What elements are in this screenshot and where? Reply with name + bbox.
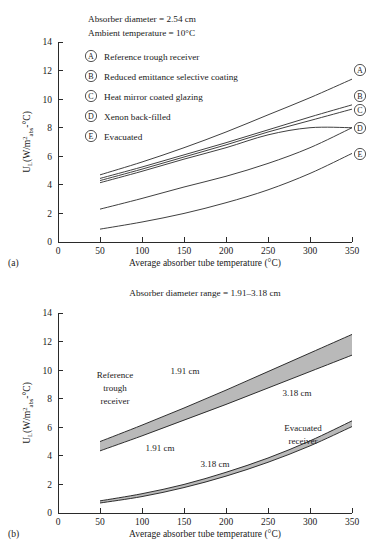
- bands-group-b: [100, 334, 352, 503]
- panel-a-svg: Absorber diameter = 2.54 cm Ambient temp…: [0, 0, 375, 271]
- y-tick-label-2: 2: [47, 209, 52, 219]
- panel-b-svg: Absorber diameter range = 1.91–3.18 cm 0…: [0, 271, 375, 542]
- x-tick-label-250: 250: [261, 246, 276, 256]
- end-label-e: E: [354, 148, 365, 159]
- ylabel-b-main2: (W/m: [22, 410, 33, 433]
- annot-ref-line1: Reference: [97, 370, 133, 380]
- x-tick-label-b-50: 50: [95, 517, 105, 527]
- x-axis-title-b: Average absorber tube temperature (°C): [129, 529, 281, 540]
- annot-ref-line2: trough: [103, 383, 127, 393]
- ylabel-b-main3: -°C): [22, 382, 33, 398]
- legend-key-e: E: [89, 132, 94, 141]
- x-tick-label-b-300: 300: [303, 517, 318, 527]
- chart-panel-b: Absorber diameter range = 1.91–3.18 cm 0…: [0, 271, 375, 542]
- end-label-text-e: E: [358, 150, 363, 159]
- y-tick-label-14: 14: [43, 37, 53, 47]
- legend-label-d: Xenon back-filled: [104, 112, 171, 122]
- note-absorber-diameter: Absorber diameter = 2.54 cm: [88, 14, 196, 24]
- y-axis-title-a: UL(W/m2abs-°C): [21, 111, 34, 173]
- y-tick-label-6: 6: [47, 152, 52, 162]
- legend-key-a: A: [88, 52, 94, 61]
- x-tick-label-b-100: 100: [135, 517, 150, 527]
- y-tick-label-b-2: 2: [47, 480, 52, 490]
- end-label-text-c: C: [357, 106, 362, 115]
- x-tick-label-350: 350: [345, 246, 360, 256]
- x-ticks-a: 0 50 100 150 200 250 300 350: [56, 237, 360, 256]
- curves-group-a: [100, 79, 352, 229]
- x-tick-label-200: 200: [219, 246, 234, 256]
- legend-key-c: C: [88, 92, 93, 101]
- x-tick-label-0: 0: [56, 246, 61, 256]
- x-tick-label-300: 300: [303, 246, 318, 256]
- legend-label-c: Heat mirror coated glazing: [104, 92, 203, 102]
- x-tick-label-50: 50: [95, 246, 105, 256]
- note-ambient-temperature: Ambient temperature = 10°C: [88, 28, 195, 38]
- end-label-c: C: [354, 104, 365, 115]
- x-tick-label-b-150: 150: [177, 517, 192, 527]
- legend-item-e: E Evacuated: [85, 130, 142, 141]
- y-tick-label-b-6: 6: [47, 423, 52, 433]
- annot-lower-318: 3.18 cm: [201, 459, 230, 469]
- y-tick-label-8: 8: [47, 123, 52, 133]
- svg-text:UL(W/m2abs-°C): UL(W/m2abs-°C): [21, 382, 34, 444]
- end-label-text-d: D: [357, 124, 363, 133]
- y-ticks-a: 0 2 4 6 8 10 12 14: [43, 37, 64, 247]
- y-ticks-b: 0 2 4 6 8 10 12 14: [43, 308, 64, 518]
- ylabel-main2: (W/m: [22, 139, 33, 162]
- annot-evac-line2: receiver: [289, 436, 318, 446]
- panel-label-a: (a): [8, 258, 19, 269]
- y-tick-label-b-10: 10: [43, 366, 53, 376]
- y-tick-label-b-12: 12: [43, 337, 53, 347]
- legend-label-a: Reference trough receiver: [104, 52, 199, 62]
- x-tick-label-150: 150: [177, 246, 192, 256]
- legend-key-d: D: [88, 112, 94, 121]
- legend-item-b: B Reduced emittance selective coating: [85, 70, 238, 81]
- annotation-evacuated-receiver: Evacuated receiver: [284, 423, 322, 446]
- legend-item-a: A Reference trough receiver: [85, 50, 199, 61]
- y-tick-label-b-8: 8: [47, 394, 52, 404]
- y-tick-label-12: 12: [43, 66, 53, 76]
- y-tick-label-b-0: 0: [47, 508, 52, 518]
- note-absorber-diameter-range: Absorber diameter range = 1.91–3.18 cm: [129, 288, 280, 298]
- curve-e: [100, 153, 352, 229]
- ylabel-main3: -°C): [22, 111, 33, 127]
- end-label-text-b: B: [357, 92, 362, 101]
- annot-ref-line3: receiver: [101, 396, 130, 406]
- annot-upper-191: 1.91 cm: [171, 366, 200, 376]
- x-tick-label-b-200: 200: [219, 517, 234, 527]
- x-tick-label-b-350: 350: [345, 517, 360, 527]
- end-labels-a: A B C D E: [354, 64, 365, 159]
- end-label-text-a: A: [357, 66, 363, 75]
- end-label-d: D: [354, 122, 365, 133]
- panel-label-b: (b): [8, 529, 19, 540]
- legend-item-d: D Xenon back-filled: [85, 110, 171, 121]
- annot-evac-line1: Evacuated: [284, 423, 322, 433]
- annot-upper-318: 3.18 cm: [283, 388, 312, 398]
- x-axis-title-a: Average absorber tube temperature (°C): [129, 258, 281, 269]
- legend-label-e: Evacuated: [104, 132, 143, 142]
- end-label-a: A: [354, 64, 365, 75]
- svg-text:UL(W/m2abs-°C): UL(W/m2abs-°C): [21, 111, 34, 173]
- end-label-b: B: [354, 90, 365, 101]
- legend-item-c: C Heat mirror coated glazing: [85, 90, 203, 101]
- y-tick-label-10: 10: [43, 95, 53, 105]
- annot-lower-191: 1.91 cm: [146, 443, 175, 453]
- legend-a: A Reference trough receiver B Reduced em…: [85, 50, 238, 141]
- y-tick-label-4: 4: [47, 180, 52, 190]
- x-tick-label-b-250: 250: [261, 517, 276, 527]
- band-fill-reference: [100, 334, 352, 450]
- legend-label-b: Reduced emittance selective coating: [104, 72, 238, 82]
- annotation-reference-trough-receiver: Reference trough receiver: [97, 370, 133, 406]
- x-tick-label-100: 100: [135, 246, 150, 256]
- y-tick-label-b-4: 4: [47, 451, 52, 461]
- x-ticks-b: 0 50 100 150 200 250 300 350: [56, 508, 360, 527]
- legend-key-b: B: [88, 72, 93, 81]
- y-tick-label-0: 0: [47, 237, 52, 247]
- figure-container: Absorber diameter = 2.54 cm Ambient temp…: [0, 0, 375, 542]
- y-tick-label-b-14: 14: [43, 308, 53, 318]
- chart-panel-a: Absorber diameter = 2.54 cm Ambient temp…: [0, 0, 375, 271]
- y-axis-title-b: UL(W/m2abs-°C): [21, 382, 34, 444]
- x-tick-label-b-0: 0: [56, 517, 61, 527]
